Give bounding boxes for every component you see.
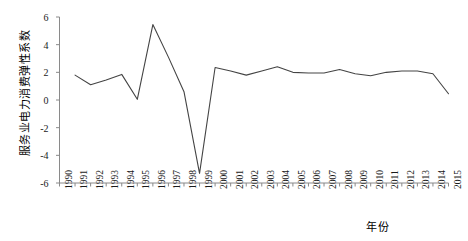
chart-figure: 服务业电力消费弹性系数 年份 6420-2-4-6 19901991199219… [0,0,468,241]
axes [60,17,449,183]
tick-marks [56,17,449,187]
data-series [75,25,448,174]
series-line [75,25,448,174]
line-chart-plot-area [0,0,468,241]
